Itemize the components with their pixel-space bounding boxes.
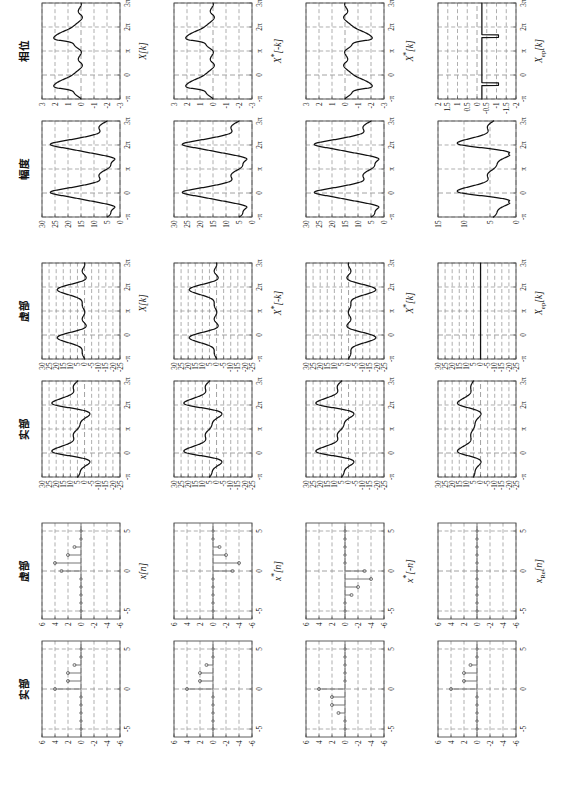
- y-tick-labels-r3c1: -6-4-20246: [303, 735, 389, 747]
- gridlines-r1c4: [42, 263, 120, 359]
- plot-svg-r1c6: -3-2-10123-π0π2π3π: [38, 0, 142, 133]
- gridlines-r4c5: [438, 121, 516, 217]
- svg-text:25: 25: [442, 362, 450, 370]
- svg-text:0: 0: [474, 622, 482, 626]
- svg-text:-2: -2: [355, 740, 363, 746]
- svg-text:0: 0: [249, 220, 257, 224]
- svg-text:-25: -25: [513, 480, 521, 490]
- svg-text:-20: -20: [374, 362, 382, 372]
- svg-text:0: 0: [213, 362, 221, 366]
- svg-text:20: 20: [329, 220, 337, 228]
- column-header-real2: 实部: [16, 381, 31, 477]
- svg-text:10: 10: [67, 362, 75, 370]
- svg-text:0: 0: [256, 73, 264, 77]
- svg-text:0: 0: [520, 569, 528, 573]
- svg-text:0: 0: [342, 622, 350, 626]
- svg-text:-4: -4: [368, 740, 376, 746]
- svg-text:15: 15: [456, 480, 464, 488]
- svg-text:6: 6: [39, 740, 47, 744]
- svg-text:0: 0: [342, 102, 350, 106]
- svg-text:6: 6: [39, 622, 47, 626]
- svg-text:0: 0: [345, 480, 353, 484]
- svg-text:-5: -5: [88, 362, 96, 368]
- column-header-mag: 幅度: [16, 121, 31, 217]
- svg-text:-3: -3: [249, 102, 257, 108]
- svg-text:4: 4: [448, 740, 456, 744]
- svg-text:-π: -π: [124, 96, 132, 102]
- svg-text:3π: 3π: [520, 0, 528, 7]
- svg-text:-5: -5: [256, 608, 264, 614]
- svg-text:-20: -20: [242, 362, 250, 372]
- svg-text:30: 30: [435, 480, 443, 488]
- svg-text:-15: -15: [234, 362, 242, 372]
- svg-text:-0.5: -0.5: [483, 102, 491, 114]
- svg-text:2π: 2π: [124, 23, 132, 31]
- svg-text:-10: -10: [491, 362, 499, 372]
- plot-panel-r3c6: -3-2-10123-π0π2π3π: [302, 0, 406, 133]
- plot-panel-r4c6: -2-1.5-1-0.500.511.52-π0π2π3π: [434, 0, 538, 133]
- plot-panel-r4c2: -6-4-20246-505: [434, 509, 538, 653]
- svg-text:2π: 2π: [388, 401, 396, 409]
- svg-text:1: 1: [329, 102, 337, 106]
- svg-text:2π: 2π: [124, 283, 132, 291]
- svg-text:2π: 2π: [256, 23, 264, 31]
- svg-text:-π: -π: [520, 474, 528, 480]
- svg-text:25: 25: [310, 362, 318, 370]
- svg-text:4: 4: [316, 622, 324, 626]
- svg-text:2: 2: [184, 102, 192, 106]
- svg-text:30: 30: [171, 480, 179, 488]
- plot-panel-r2c2: -6-4-20246-505: [170, 509, 274, 653]
- svg-text:0: 0: [477, 362, 485, 366]
- svg-text:-25: -25: [513, 362, 521, 372]
- row-label-right-row2_freq: X*[-k]: [270, 11, 283, 91]
- svg-text:4: 4: [184, 740, 192, 744]
- svg-text:15: 15: [435, 220, 443, 228]
- plot-svg-r3c4: -25-20-15-10-5051015202530-π0π2π3π: [302, 249, 406, 393]
- svg-text:25: 25: [46, 480, 54, 488]
- svg-text:25: 25: [184, 220, 192, 228]
- svg-text:3π: 3π: [256, 0, 264, 7]
- svg-text:-10: -10: [491, 480, 499, 490]
- svg-text:2: 2: [52, 102, 60, 106]
- svg-text:-15: -15: [366, 480, 374, 490]
- svg-text:2: 2: [461, 622, 469, 626]
- svg-text:-10: -10: [227, 480, 235, 490]
- svg-text:-2: -2: [487, 622, 495, 628]
- gridlines-r4c6: [438, 3, 516, 99]
- svg-text:30: 30: [303, 220, 311, 228]
- svg-text:10: 10: [199, 362, 207, 370]
- svg-text:0: 0: [124, 333, 132, 337]
- svg-text:30: 30: [171, 220, 179, 228]
- plot-svg-r2c6: -3-2-10123-π0π2π3π: [170, 0, 274, 133]
- svg-text:0: 0: [124, 687, 132, 691]
- row-label-row4_time: xRe[n]: [534, 531, 546, 611]
- svg-text:0: 0: [117, 220, 125, 224]
- svg-text:15: 15: [210, 220, 218, 228]
- svg-text:15: 15: [192, 480, 200, 488]
- svg-text:30: 30: [39, 480, 47, 488]
- svg-text:0: 0: [81, 362, 89, 366]
- plot-svg-r2c4: -25-20-15-10-5051015202530-π0π2π3π: [170, 249, 274, 393]
- svg-text:-π: -π: [388, 474, 396, 480]
- svg-text:-π: -π: [124, 356, 132, 362]
- svg-text:15: 15: [192, 362, 200, 370]
- svg-text:0: 0: [520, 687, 528, 691]
- plot-svg-r4c4: -25-20-15-10-5051015202530-π0π2π3π: [434, 249, 538, 393]
- svg-text:0: 0: [210, 622, 218, 626]
- svg-text:π: π: [388, 49, 396, 53]
- svg-text:10: 10: [223, 220, 231, 228]
- svg-text:0: 0: [256, 191, 264, 195]
- svg-text:10: 10: [67, 480, 75, 488]
- svg-text:2π: 2π: [388, 23, 396, 31]
- svg-text:-4: -4: [236, 622, 244, 628]
- svg-text:-1: -1: [355, 102, 363, 108]
- svg-text:1: 1: [454, 102, 462, 106]
- svg-text:-π: -π: [124, 214, 132, 220]
- svg-text:π: π: [256, 49, 264, 53]
- svg-text:-5: -5: [256, 726, 264, 732]
- svg-text:-5: -5: [484, 480, 492, 486]
- svg-text:-2: -2: [236, 102, 244, 108]
- svg-text:π: π: [520, 309, 528, 313]
- row-label-row2_freq: X*[-k]: [270, 263, 283, 343]
- plot-svg-r4c6: -2-1.5-1-0.500.511.52-π0π2π3π: [434, 0, 538, 133]
